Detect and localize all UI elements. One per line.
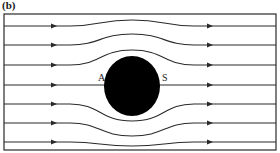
cylinder-body (104, 56, 160, 116)
streamline-diagram: A S (0, 0, 280, 153)
flow-arrow-icon (51, 139, 57, 144)
streamline (4, 34, 276, 45)
flow-arrow-icon (207, 62, 213, 67)
flow-arrow-icon (51, 42, 57, 47)
flow-arrow-icon (207, 101, 213, 106)
streamline (4, 123, 276, 136)
stagnation-point-a-label: A (98, 72, 106, 83)
flow-arrow-icon (207, 82, 213, 87)
stagnation-point-s-label: S (162, 72, 168, 83)
flow-arrow-icon (207, 23, 213, 28)
flow-arrow-icon (51, 23, 57, 28)
flow-arrow-icon (207, 42, 213, 47)
flow-arrow-icon (51, 101, 57, 106)
flow-arrow-icon (207, 120, 213, 125)
streamline (4, 20, 276, 26)
flow-arrow-icon (51, 120, 57, 125)
flow-arrow-icon (51, 62, 57, 67)
flow-arrow-icon (207, 139, 213, 144)
streamline (4, 142, 276, 146)
flow-arrow-icon (51, 82, 57, 87)
